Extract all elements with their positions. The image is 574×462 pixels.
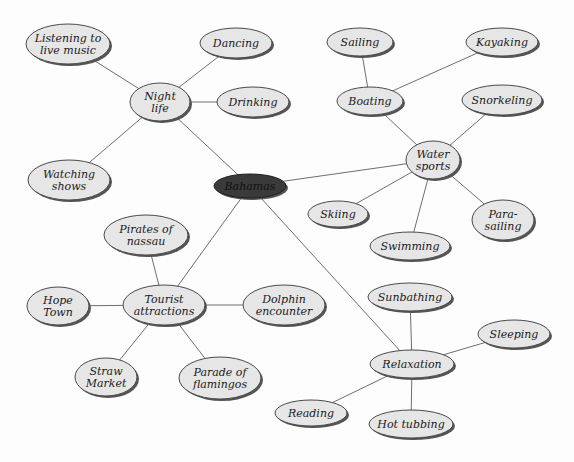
node-watching: Watchingshows	[28, 160, 112, 202]
node-label: Hot tubbing	[376, 418, 444, 431]
node-label: encounter	[256, 305, 313, 318]
node-label: flamingos	[192, 378, 248, 391]
node-pirates: Pirates ofnassau	[104, 215, 190, 257]
node-label: Skiing	[320, 208, 355, 221]
node-parasailing: Para-sailing	[472, 200, 536, 242]
node-label: Drinking	[228, 96, 278, 109]
node-label: Swimming	[381, 240, 440, 253]
node-hot-tubbing: Hot tubbing	[369, 410, 455, 440]
node-night-life: Nightlife	[130, 83, 192, 123]
node-parade: Parade offlamingos	[179, 357, 263, 401]
node-label: Snorkeling	[472, 94, 533, 107]
node-label: life	[151, 102, 169, 115]
node-skiing: Skiing	[308, 201, 370, 229]
node-snorkeling: Snorkeling	[462, 85, 544, 117]
node-bahamas: Bahamas	[214, 174, 288, 200]
node-label: Town	[43, 306, 73, 319]
node-swimming: Swimming	[370, 232, 452, 262]
node-label: Bahamas	[224, 180, 276, 193]
node-dolphin: Dolphinencounter	[243, 285, 327, 327]
node-label: sailing	[485, 220, 522, 233]
node-hope-town: HopeTown	[27, 287, 91, 327]
node-label: Dancing	[212, 37, 259, 50]
node-tourist: Touristattractions	[123, 285, 207, 327]
node-label: sports	[416, 160, 451, 173]
node-label: nassau	[127, 235, 166, 248]
mind-map-canvas: BahamasNightlifeListening tolive musicDa…	[0, 0, 574, 462]
node-water-sports: Watersports	[406, 141, 462, 181]
node-label: live music	[40, 44, 96, 57]
node-reading: Reading	[275, 400, 349, 428]
node-label: Relaxation	[381, 358, 441, 371]
node-sunbathing: Sunbathing	[368, 283, 454, 313]
node-boating: Boating	[337, 87, 405, 117]
node-label: Reading	[287, 407, 334, 420]
mind-map-diagram: BahamasNightlifeListening tolive musicDa…	[0, 0, 574, 462]
node-label: Sailing	[341, 36, 380, 49]
node-label: Sunbathing	[378, 291, 442, 304]
node-layer: BahamasNightlifeListening tolive musicDa…	[26, 24, 552, 440]
node-relaxation: Relaxation	[370, 350, 456, 380]
node-sleeping: Sleeping	[478, 320, 552, 350]
node-label: Kayaking	[475, 36, 528, 49]
node-label: attractions	[134, 305, 195, 318]
node-dancing: Dancing	[200, 28, 274, 60]
node-label: shows	[52, 180, 87, 193]
node-label: Market	[85, 377, 127, 390]
node-straw-market: StrawMarket	[75, 358, 139, 398]
node-drinking: Drinking	[217, 87, 291, 119]
node-label: Boating	[347, 95, 391, 108]
node-label: Sleeping	[490, 328, 539, 341]
node-sailing: Sailing	[327, 28, 395, 58]
node-listening: Listening tolive music	[26, 24, 112, 66]
